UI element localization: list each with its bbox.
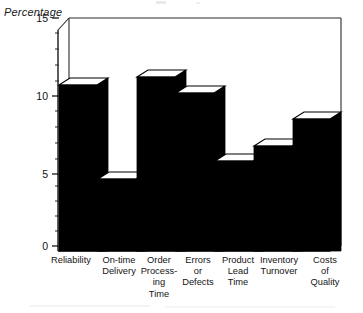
x-tick-label-order-processing-time: Order Process- ing Time bbox=[137, 255, 181, 300]
bar-costs-of-quality bbox=[293, 112, 341, 251]
chart-page: Percentage bbox=[0, 0, 363, 313]
x-tick-label-errors-or-defects: Errors or Defects bbox=[177, 255, 219, 289]
x-tick-label-costs-of-quality: Costs of Quality bbox=[303, 255, 347, 289]
x-tick-label-inventory-turnover: Inventory Turnover bbox=[253, 255, 305, 277]
x-tick-label-reliability: Reliability bbox=[42, 255, 100, 266]
x-tick-label-on-time-delivery: On-time Delivery bbox=[97, 255, 141, 277]
